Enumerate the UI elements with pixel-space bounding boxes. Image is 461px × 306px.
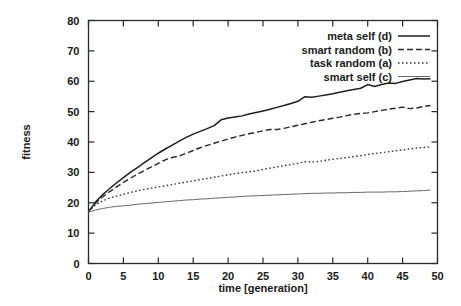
y-tick-label: 80 xyxy=(67,15,79,27)
chart-legend: meta self (d)smart random (b)task random… xyxy=(302,30,430,83)
x-tick-label: 50 xyxy=(431,270,443,282)
x-tick-label: 25 xyxy=(257,270,269,282)
legend-label-0: meta self (d) xyxy=(327,30,392,42)
fitness-line-chart: 01020304050607080 05101520253035404550 t… xyxy=(0,0,461,306)
series-group xyxy=(89,79,431,213)
x-tick-label: 15 xyxy=(187,270,199,282)
x-tick-label: 40 xyxy=(362,270,374,282)
x-tick-label: 35 xyxy=(327,270,339,282)
x-tick-label: 10 xyxy=(152,270,164,282)
x-tick-label: 45 xyxy=(396,270,408,282)
chart-page: 01020304050607080 05101520253035404550 t… xyxy=(0,0,461,306)
legend-label-1: smart random (b) xyxy=(302,44,393,56)
y-tick-label: 40 xyxy=(67,136,79,148)
y-axis-tick-labels: 01020304050607080 xyxy=(67,15,79,270)
legend-label-3: smart self (c) xyxy=(324,71,393,83)
y-tick-label: 20 xyxy=(67,197,79,209)
x-tick-label: 0 xyxy=(85,270,91,282)
series-line-3 xyxy=(89,190,431,212)
x-tick-label: 5 xyxy=(120,270,126,282)
series-line-2 xyxy=(89,147,431,212)
y-tick-label: 70 xyxy=(67,45,79,57)
legend-label-2: task random (a) xyxy=(310,57,392,69)
y-tick-label: 60 xyxy=(67,75,79,87)
x-tick-label: 30 xyxy=(292,270,304,282)
x-tick-label: 20 xyxy=(222,270,234,282)
y-tick-label: 30 xyxy=(67,166,79,178)
y-tick-label: 10 xyxy=(67,227,79,239)
y-axis-title: fitness xyxy=(20,124,32,159)
x-axis-tick-labels: 05101520253035404550 xyxy=(85,270,443,282)
x-axis-title: time [generation] xyxy=(218,282,308,294)
y-tick-label: 0 xyxy=(73,258,79,270)
y-tick-label: 50 xyxy=(67,106,79,118)
